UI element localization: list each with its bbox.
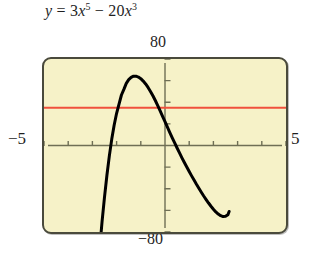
equation-minus-operator: − xyxy=(95,2,104,19)
equation-term2-coefficient: 20 xyxy=(108,2,124,19)
equation-equals: = xyxy=(57,2,66,19)
x-max-label: 5 xyxy=(291,129,300,149)
equation-caption: y = 3x5 − 20x3 xyxy=(45,2,137,20)
plot-area xyxy=(44,59,286,232)
equation-term1-coefficient: 3 xyxy=(70,2,78,19)
x-min-label: −5 xyxy=(8,129,26,149)
graphing-calculator-screen xyxy=(42,57,288,234)
equation-term2-variable: x xyxy=(125,2,132,19)
equation-term1-exponent: 5 xyxy=(85,1,90,12)
equation-term2-exponent: 3 xyxy=(132,1,137,12)
axes-group xyxy=(44,59,286,232)
y-max-label: 80 xyxy=(150,33,166,51)
equation-lhs: y xyxy=(45,2,52,19)
